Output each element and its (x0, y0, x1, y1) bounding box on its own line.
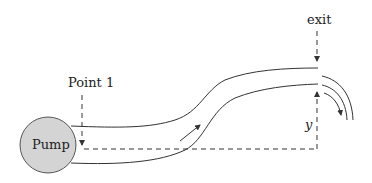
exit-stream-arc-middle (322, 85, 347, 120)
flow-arrow-icon (180, 125, 200, 141)
point1-label: Point 1 (68, 76, 114, 89)
exit-stream-arc-inner (324, 93, 341, 115)
pump-label: Pump (32, 138, 70, 151)
exit-label: exit (307, 13, 331, 26)
pipe-lower-wall (71, 84, 318, 164)
diagram-graphics (0, 0, 372, 183)
height-y-label: y (305, 118, 312, 131)
exit-stream-arc-outer (322, 76, 353, 120)
pump-pipe-diagram: Pump Point 1 exit y (0, 0, 372, 183)
